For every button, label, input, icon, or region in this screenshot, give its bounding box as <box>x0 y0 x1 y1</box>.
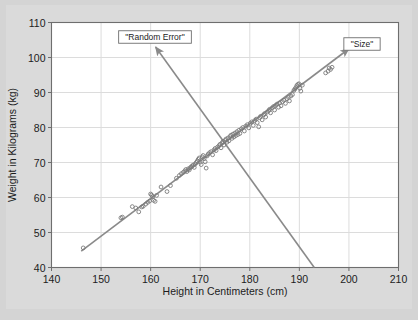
y-tick-label: 60 <box>34 192 46 204</box>
plot-area-background <box>52 23 399 268</box>
x-tick-label: 170 <box>191 273 209 285</box>
x-tick-label: 180 <box>241 273 259 285</box>
y-tick-label: 50 <box>34 227 46 239</box>
y-tick-label: 40 <box>34 262 46 274</box>
x-tick-label: 190 <box>291 273 309 285</box>
annotation-label-random-error-text: "Random Error" <box>125 32 184 42</box>
x-tick-label: 150 <box>92 273 110 285</box>
annotation-label-size-text: "Size" <box>351 39 374 49</box>
y-tick-label: 80 <box>34 122 46 134</box>
y-tick-label: 70 <box>34 157 46 169</box>
annotation-label-size: "Size" <box>344 38 380 51</box>
annotation-label-random-error: "Random Error" <box>119 31 192 44</box>
chart-svg: 1401501601701801902002104050607080901001… <box>0 0 418 320</box>
x-tick-label: 160 <box>142 273 160 285</box>
y-tick-label: 110 <box>29 17 46 29</box>
y-axis-title: Weight in Kilograms (kg) <box>6 88 18 202</box>
x-tick-label: 210 <box>390 273 408 285</box>
y-tick-label: 100 <box>28 52 46 64</box>
x-tick-label: 140 <box>43 273 61 285</box>
scatter-plot-figure: 1401501601701801902002104050607080901001… <box>0 0 418 320</box>
x-axis-title: Height in Centimeters (cm) <box>163 285 288 297</box>
y-tick-label: 90 <box>34 87 46 99</box>
x-tick-label: 200 <box>340 273 358 285</box>
